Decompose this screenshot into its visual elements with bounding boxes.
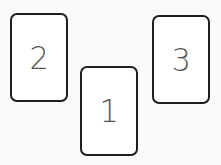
card-number: 1 (99, 95, 118, 127)
card-2[interactable]: 2 (10, 13, 68, 102)
card-1[interactable]: 1 (80, 66, 138, 156)
card-number: 2 (29, 42, 48, 74)
card-3[interactable]: 3 (152, 15, 210, 104)
card-number: 3 (171, 44, 190, 76)
